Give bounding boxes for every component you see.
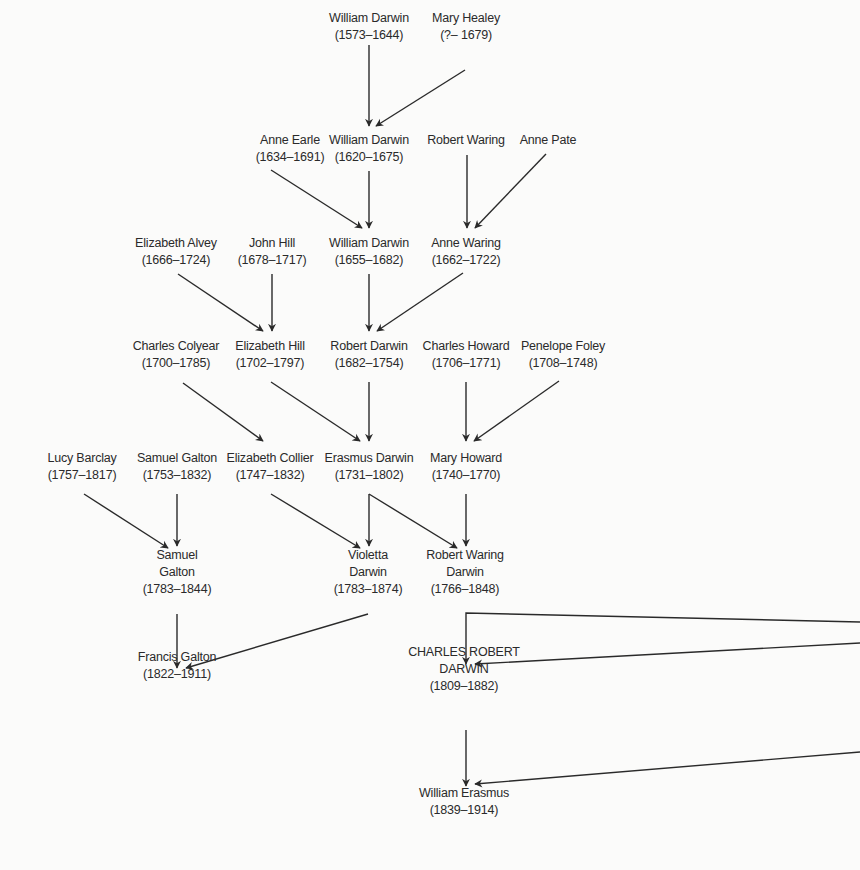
arrow-offpage-to-we1839: [475, 752, 860, 784]
person-name: Francis Galton: [138, 649, 216, 666]
arrow-ae1634-to-wd1655: [271, 170, 362, 228]
person-node-wd1655: William Darwin(1655–1682): [329, 235, 409, 269]
arrow-ea1666-to-eh1702: [178, 274, 263, 331]
arrow-rwd1766-to-crd1809: [466, 613, 860, 664]
arrow-offpage-to-crd1809: [475, 643, 860, 664]
arrow-pf1708-to-mh1740: [474, 381, 559, 441]
family-tree-diagram: William Darwin(1573–1644)Mary Healey(?– …: [0, 0, 860, 870]
person-name: Penelope Foley: [521, 338, 605, 355]
person-name: Galton: [143, 564, 212, 581]
person-name: William Darwin: [329, 10, 409, 27]
person-node-ae1634: Anne Earle(1634–1691): [256, 132, 325, 166]
person-dates: (1620–1675): [329, 149, 409, 166]
person-name: William Erasmus: [419, 785, 509, 802]
person-node-ch1706: Charles Howard(1706–1771): [423, 338, 510, 372]
person-dates: (1708–1748): [521, 355, 605, 372]
person-dates: (1822–1911): [138, 666, 216, 683]
person-node-rd1682: Robert Darwin(1682–1754): [330, 338, 407, 372]
person-dates: (1678–1717): [238, 252, 307, 269]
person-node-sg1753: Samuel Galton(1753–1832): [137, 450, 217, 484]
person-node-eh1702: Elizabeth Hill(1702–1797): [235, 338, 304, 372]
person-node-sg1783: SamuelGalton(1783–1844): [143, 547, 212, 598]
person-name: Elizabeth Hill: [235, 338, 304, 355]
person-name: Charles Howard: [423, 338, 510, 355]
person-name: Anne Waring: [431, 235, 501, 252]
person-dates: (1634–1691): [256, 149, 325, 166]
person-name: Anne Pate: [520, 132, 577, 149]
person-dates: (1682–1754): [330, 355, 407, 372]
person-dates: (1740–1770): [430, 467, 502, 484]
person-name: John Hill: [238, 235, 307, 252]
person-name: William Darwin: [329, 132, 409, 149]
arrows-layer: [0, 0, 860, 870]
person-node-jh1678: John Hill(1678–1717): [238, 235, 307, 269]
arrow-mh1679-to-wd1620: [376, 70, 465, 126]
person-dates: (1766–1848): [426, 581, 504, 598]
person-name: Robert Waring: [427, 132, 505, 149]
arrow-lb1757-to-sg1783: [84, 494, 168, 548]
person-node-mh1679: Mary Healey(?– 1679): [432, 10, 500, 44]
person-node-ea1666: Elizabeth Alvey(1666–1724): [135, 235, 217, 269]
person-node-vd1783: ViolettaDarwin(1783–1874): [334, 547, 403, 598]
person-node-aw1662: Anne Waring(1662–1722): [431, 235, 501, 269]
person-node-mh1740: Mary Howard(1740–1770): [430, 450, 502, 484]
person-name: Anne Earle: [256, 132, 325, 149]
person-dates: (1783–1874): [334, 581, 403, 598]
person-name: Elizabeth Collier: [227, 450, 314, 467]
person-dates: (1731–1802): [325, 467, 414, 484]
person-node-wd1573: William Darwin(1573–1644): [329, 10, 409, 44]
arrow-cc1700-to-ec1747: [183, 383, 263, 441]
person-name: Samuel: [143, 547, 212, 564]
person-node-fg1822: Francis Galton(1822–1911): [138, 649, 216, 683]
arrow-ed1731-to-rwd1766: [369, 494, 457, 548]
person-name: Robert Darwin: [330, 338, 407, 355]
person-name: Mary Healey: [432, 10, 500, 27]
person-dates: (1662–1722): [431, 252, 501, 269]
person-node-ec1747: Elizabeth Collier(1747–1832): [227, 450, 314, 484]
person-dates: (1839–1914): [419, 802, 509, 819]
person-name: Erasmus Darwin: [325, 450, 414, 467]
person-node-pf1708: Penelope Foley(1708–1748): [521, 338, 605, 372]
arrow-ec1747-to-vd1783: [271, 494, 360, 548]
person-name: Robert Waring: [426, 547, 504, 564]
person-node-rwd1766: Robert WaringDarwin(1766–1848): [426, 547, 504, 598]
person-dates: (1655–1682): [329, 252, 409, 269]
person-name: William Darwin: [329, 235, 409, 252]
person-node-crd1809: CHARLES ROBERTDARWIN(1809–1882): [408, 644, 520, 695]
person-dates: (1747–1832): [227, 467, 314, 484]
person-name: Darwin: [426, 564, 504, 581]
person-name: Violetta: [334, 547, 403, 564]
person-dates: (1757–1817): [47, 467, 116, 484]
person-dates: (1666–1724): [135, 252, 217, 269]
person-name: Samuel Galton: [137, 450, 217, 467]
person-node-wd1620: William Darwin(1620–1675): [329, 132, 409, 166]
person-name: Charles Colyear: [133, 338, 220, 355]
arrow-aw1662-to-rd1682: [377, 273, 463, 331]
person-name: DARWIN: [408, 661, 520, 678]
person-node-lb1757: Lucy Barclay(1757–1817): [47, 450, 116, 484]
person-name: Darwin: [334, 564, 403, 581]
person-dates: (1783–1844): [143, 581, 212, 598]
person-node-rw: Robert Waring: [427, 132, 505, 149]
person-dates: (1573–1644): [329, 27, 409, 44]
person-dates: (1706–1771): [423, 355, 510, 372]
person-dates: (1809–1882): [408, 678, 520, 695]
person-dates: (?– 1679): [432, 27, 500, 44]
arrow-eh1702-to-ed1731: [271, 382, 360, 441]
person-name: CHARLES ROBERT: [408, 644, 520, 661]
person-node-ed1731: Erasmus Darwin(1731–1802): [325, 450, 414, 484]
person-name: Lucy Barclay: [47, 450, 116, 467]
person-dates: (1753–1832): [137, 467, 217, 484]
person-node-we1839: William Erasmus(1839–1914): [419, 785, 509, 819]
person-name: Mary Howard: [430, 450, 502, 467]
arrow-ap-to-aw1662: [475, 154, 546, 228]
person-dates: (1702–1797): [235, 355, 304, 372]
person-node-cc1700: Charles Colyear(1700–1785): [133, 338, 220, 372]
person-dates: (1700–1785): [133, 355, 220, 372]
person-name: Elizabeth Alvey: [135, 235, 217, 252]
person-node-ap: Anne Pate: [520, 132, 577, 149]
